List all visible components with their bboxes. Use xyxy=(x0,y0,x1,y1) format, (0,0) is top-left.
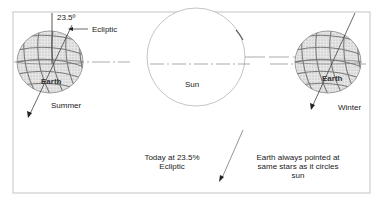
today-ecliptic-arrow xyxy=(219,130,243,182)
earth-right-label: Earth xyxy=(322,74,342,83)
sun-icon xyxy=(147,8,245,106)
axial-tilt-diagram: 23.5º Ecliptic Earth Earth Sun Summer Wi… xyxy=(0,0,379,202)
sun-label: Sun xyxy=(185,80,199,89)
ecliptic-label: Ecliptic xyxy=(92,25,117,34)
today-line-1: Today at 23.5% xyxy=(142,153,202,162)
earth-pointing-note: Earth always pointed at same stars as it… xyxy=(243,153,353,180)
note-line-2: same stars as it circles xyxy=(243,162,353,171)
earth-left-label: Earth xyxy=(41,77,61,86)
earth-winter-icon xyxy=(288,26,372,98)
today-ecliptic-note: Today at 23.5% Ecliptic xyxy=(142,153,202,171)
note-line-3: sun xyxy=(243,171,353,180)
today-line-2: Ecliptic xyxy=(142,162,202,171)
note-line-1: Earth always pointed at xyxy=(243,153,353,162)
tilt-angle-label: 23.5º xyxy=(57,13,76,22)
summer-label: Summer xyxy=(51,101,81,110)
winter-label: Winter xyxy=(338,103,361,112)
